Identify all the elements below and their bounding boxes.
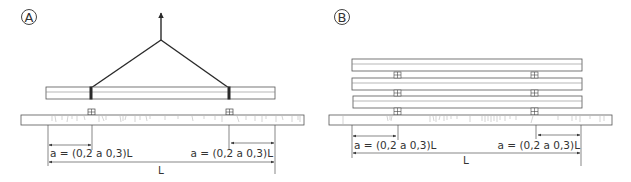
spacer-block-icon: [394, 108, 401, 115]
stacked-timber-1: [352, 59, 582, 71]
sling: [91, 40, 229, 88]
spacer-block-icon: [88, 109, 95, 115]
panel-a-badge: A: [22, 10, 37, 25]
spacer-block-icon: [226, 109, 233, 115]
panel-b: B: [329, 10, 612, 167]
lifted-timber: [46, 87, 275, 100]
panel-b-badge: B: [335, 10, 350, 25]
base-timber: [21, 115, 304, 125]
dimension-a-left: a = (0,2 a 0,3)L: [354, 139, 437, 151]
dimension-length: L: [158, 164, 164, 176]
sling-clamp-left: [90, 87, 93, 100]
dimension-a-left: a = (0,2 a 0,3)L: [50, 147, 133, 159]
panel-a-label: A: [25, 10, 34, 25]
spacer-block-icon: [531, 72, 538, 78]
spacer-block-icon: [531, 90, 538, 96]
stacked-timber-3: [353, 96, 582, 108]
panel-a: A: [21, 10, 304, 177]
panel-b-label: B: [338, 10, 347, 25]
sling-clamp-right: [228, 87, 231, 100]
spacer-block-icon: [394, 90, 401, 96]
stacked-timber-2: [352, 78, 582, 90]
diagram-canvas: A: [0, 0, 631, 182]
spacer-block-icon: [394, 72, 401, 78]
spacer-block-icon: [531, 108, 538, 115]
dimension-length: L: [463, 154, 469, 166]
dimension-a-right: a = (0,2 a 0,3)L: [191, 147, 274, 159]
base-timber: [329, 115, 612, 125]
dimension-a-right: a = (0,2 a 0,3)L: [498, 139, 581, 151]
